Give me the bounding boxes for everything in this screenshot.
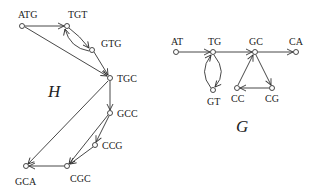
- node-tgt: [65, 24, 70, 29]
- edge-atg-tgc: [25, 27, 107, 76]
- graph-g: AT TG GC CA GT CC CG G: [171, 36, 304, 136]
- edge-ccg-cgc: [70, 147, 93, 164]
- edge-gc-cg: [256, 55, 271, 85]
- label-cgc: CGC: [70, 173, 91, 184]
- node-tgc: [108, 76, 113, 81]
- label-tgt: TGT: [68, 9, 87, 20]
- graph-title-h: H: [47, 82, 62, 101]
- label-gc: GC: [249, 36, 263, 47]
- edge-gt-tg: [205, 55, 212, 88]
- label-ca: CA: [289, 36, 304, 47]
- label-gca: GCA: [15, 176, 37, 187]
- node-ca: [294, 50, 299, 55]
- graph-h: ATG TGT GTG TGC GCC CCG CGC GCA H: [15, 9, 138, 187]
- label-gtg: GTG: [101, 38, 122, 49]
- node-cg: [270, 86, 275, 91]
- node-ccg: [93, 143, 98, 148]
- node-atg: [20, 24, 25, 29]
- label-cc: CC: [231, 93, 245, 104]
- label-tgc: TGC: [117, 73, 137, 84]
- edge-tgt-gtg: [69, 28, 89, 48]
- label-gt: GT: [207, 96, 220, 107]
- label-ccg: CCG: [102, 140, 123, 151]
- node-gc: [253, 50, 258, 55]
- label-gcc: GCC: [117, 108, 138, 119]
- node-gca: [24, 164, 29, 169]
- node-gt: [211, 88, 216, 93]
- node-cc: [235, 86, 240, 91]
- node-gtg: [90, 48, 95, 53]
- graph-title-g: G: [236, 117, 248, 136]
- node-cgc: [65, 164, 70, 169]
- edge-gtg-tgc: [94, 52, 108, 75]
- edge-cc-gc: [238, 55, 253, 85]
- edge-gtg-tgt: [65, 29, 89, 51]
- edge-gcc-ccg: [96, 116, 109, 142]
- edge-tg-gt: [214, 55, 221, 87]
- label-tg: TG: [208, 36, 221, 47]
- label-atg: ATG: [18, 9, 37, 20]
- label-at: AT: [171, 36, 183, 47]
- node-at: [174, 50, 179, 55]
- node-tg: [211, 50, 216, 55]
- de-bruijn-diagram: ATG TGT GTG TGC GCC CCG CGC GCA H AT TG …: [0, 0, 315, 195]
- node-gcc: [108, 111, 113, 116]
- label-cg: CG: [265, 93, 279, 104]
- edge-tgc-gca: [28, 81, 108, 164]
